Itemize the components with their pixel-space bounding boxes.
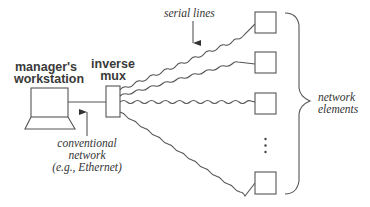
serial-line-3 — [120, 101, 255, 104]
network-element-2 — [255, 52, 276, 73]
ellipsis-dots — [264, 138, 266, 153]
grouping-brace — [285, 13, 310, 194]
laptop-icon — [25, 88, 75, 129]
conventional-network-label-line3: (e.g., Ethernet) — [52, 161, 122, 174]
serial-line-1 — [120, 24, 255, 90]
conventional-network-label-line2: network — [68, 149, 106, 161]
inverse-mux-box — [106, 86, 120, 117]
serial-lines — [120, 24, 255, 196]
network-elements-label-line2: elements — [318, 103, 359, 115]
workstation-label-line2: workstation — [13, 72, 84, 86]
network-element-n — [255, 172, 276, 194]
network-element-1 — [255, 12, 276, 33]
serial-line-2 — [120, 62, 255, 96]
network-diagram: manager's workstation inverse mux serial… — [0, 0, 370, 207]
network-element-3 — [255, 93, 276, 114]
mux-label-line2: mux — [100, 69, 126, 83]
conventional-network-label-line1: conventional — [57, 137, 116, 149]
serial-line-n — [120, 112, 255, 196]
serial-lines-label: serial lines — [164, 7, 215, 19]
network-elements-label-line1: network — [318, 91, 356, 103]
